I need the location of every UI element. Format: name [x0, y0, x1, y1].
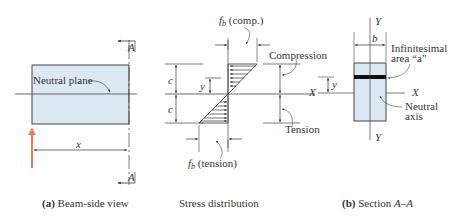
tension-triangle	[199, 94, 228, 123]
stress-distribution: c c y fb (comp.) fb (tension) Compressio…	[165, 14, 328, 209]
section-marker-bottom: A	[127, 171, 135, 183]
caption-a: (a) Beam-side view	[42, 197, 129, 210]
section-y-label: y	[331, 78, 337, 90]
fb-tension-label: fb (tension)	[188, 157, 237, 171]
tension-arrows	[201, 102, 227, 121]
neutral-plane-label: Neutral plane	[33, 74, 93, 86]
fb-comp-label: fb (comp.)	[219, 14, 264, 28]
fb-comp-leader	[245, 28, 250, 44]
c-upper-label: c	[168, 74, 173, 86]
beam-side-view: Neutral plane A A x (a) Beam-side view	[15, 40, 137, 210]
y-axis-top-label: Y	[375, 15, 383, 27]
y-label: y	[199, 80, 205, 92]
b-label: b	[372, 32, 378, 44]
area-label-line2: area “a”	[391, 52, 427, 64]
tension-label: Tension	[285, 123, 320, 135]
distance-x-label: x	[75, 138, 81, 150]
section-marker-top: A	[127, 41, 135, 53]
neutral-axis-line2: axis	[405, 110, 423, 122]
caption-stress: Stress distribution	[179, 197, 259, 209]
compression-label: Compression	[269, 49, 328, 61]
compression-triangle	[228, 64, 257, 94]
compression-leader	[282, 59, 296, 75]
area-leader	[388, 64, 410, 78]
c-lower-label: c	[168, 103, 173, 115]
beam-bending-diagram: Neutral plane A A x (a) Beam-side view	[0, 0, 454, 218]
fb-tension-leader	[216, 141, 222, 158]
caption-b: (b) Section A–A	[342, 197, 413, 210]
y-axis-bottom-label: Y	[375, 131, 383, 143]
x-axis-right-label: X	[411, 86, 420, 98]
section-a-a: Y Y X X b y Infinitesimal area “a” Neutr…	[308, 15, 447, 210]
x-axis-left-label: X	[308, 86, 317, 98]
